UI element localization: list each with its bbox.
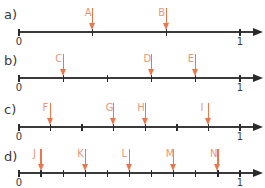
- end-label: 1: [237, 83, 243, 93]
- marker-arrow-stem: [145, 103, 146, 119]
- start-label: 0: [16, 83, 22, 93]
- marker-letter: C: [55, 54, 62, 64]
- tick-mark: [151, 170, 152, 177]
- down-arrow-icon: [163, 23, 169, 30]
- marker-letter: K: [77, 149, 84, 159]
- tick-mark: [239, 29, 240, 36]
- axis-arrow-icon: [253, 169, 263, 177]
- marker-letter: A: [85, 8, 92, 18]
- marker-arrow-stem: [217, 149, 218, 165]
- tick-mark: [239, 75, 240, 82]
- start-label: 0: [16, 37, 22, 47]
- down-arrow-icon: [47, 118, 53, 125]
- tick-mark: [176, 124, 177, 131]
- down-arrow-icon: [82, 164, 88, 171]
- down-arrow-icon: [126, 164, 132, 171]
- axis-line: [19, 172, 255, 174]
- tick-mark: [107, 75, 108, 82]
- axis-line: [19, 126, 255, 128]
- marker-arrow-stem: [129, 149, 130, 165]
- tick-mark: [195, 170, 196, 177]
- panel-label: b): [4, 54, 17, 67]
- tick-mark: [18, 170, 19, 177]
- marker-letter: N: [210, 149, 217, 159]
- down-arrow-icon: [148, 69, 154, 76]
- axis-line: [19, 77, 255, 79]
- marker-letter: L: [122, 149, 128, 159]
- down-arrow-icon: [205, 118, 211, 125]
- axis-arrow-icon: [253, 123, 263, 131]
- panel-label: d): [4, 150, 17, 163]
- marker-letter: J: [33, 149, 36, 159]
- marker-arrow-stem: [40, 149, 41, 165]
- start-label: 0: [16, 178, 22, 188]
- marker-letter: F: [43, 103, 49, 113]
- tick-mark: [18, 124, 19, 131]
- tick-mark: [81, 124, 82, 131]
- marker-arrow-stem: [63, 54, 64, 70]
- axis-arrow-icon: [253, 74, 263, 82]
- marker-arrow-stem: [50, 103, 51, 119]
- down-arrow-icon: [89, 23, 95, 30]
- down-arrow-icon: [170, 164, 176, 171]
- marker-arrow-stem: [195, 54, 196, 70]
- marker-letter: G: [106, 103, 114, 113]
- tick-mark: [63, 170, 64, 177]
- marker-letter: B: [158, 8, 165, 18]
- tick-mark: [18, 75, 19, 82]
- end-label: 1: [237, 37, 243, 47]
- panel-label: c): [4, 103, 16, 116]
- marker-letter: I: [200, 103, 203, 113]
- axis-arrow-icon: [253, 28, 263, 36]
- down-arrow-icon: [142, 118, 148, 125]
- marker-arrow-stem: [166, 8, 167, 24]
- down-arrow-icon: [192, 69, 198, 76]
- end-label: 1: [237, 132, 243, 142]
- marker-letter: H: [137, 103, 145, 113]
- down-arrow-icon: [38, 164, 44, 171]
- marker-arrow-stem: [208, 103, 209, 119]
- down-arrow-icon: [214, 164, 220, 171]
- marker-arrow-stem: [92, 8, 93, 24]
- axis-line: [19, 31, 255, 33]
- tick-mark: [107, 170, 108, 177]
- tick-mark: [18, 29, 19, 36]
- tick-mark: [239, 170, 240, 177]
- down-arrow-icon: [60, 69, 66, 76]
- marker-letter: M: [166, 149, 175, 159]
- end-label: 1: [237, 178, 243, 188]
- marker-arrow-stem: [85, 149, 86, 165]
- marker-letter: E: [188, 54, 194, 64]
- down-arrow-icon: [110, 118, 116, 125]
- tick-mark: [239, 124, 240, 131]
- marker-letter: D: [144, 54, 152, 64]
- panel-label: a): [4, 8, 17, 21]
- start-label: 0: [16, 132, 22, 142]
